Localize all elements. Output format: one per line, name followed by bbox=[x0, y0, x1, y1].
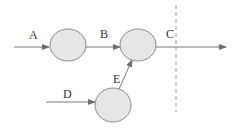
node-1-circle bbox=[50, 29, 86, 61]
label-c: C bbox=[166, 27, 174, 41]
flow-diagram: A B C D E bbox=[0, 0, 236, 130]
edge-e-arrow bbox=[119, 60, 132, 89]
label-d: D bbox=[63, 87, 72, 101]
node-3-circle bbox=[95, 88, 131, 122]
label-a: A bbox=[29, 28, 38, 42]
label-b: B bbox=[100, 27, 108, 41]
node-2-circle bbox=[120, 29, 156, 61]
label-e: E bbox=[113, 72, 120, 86]
